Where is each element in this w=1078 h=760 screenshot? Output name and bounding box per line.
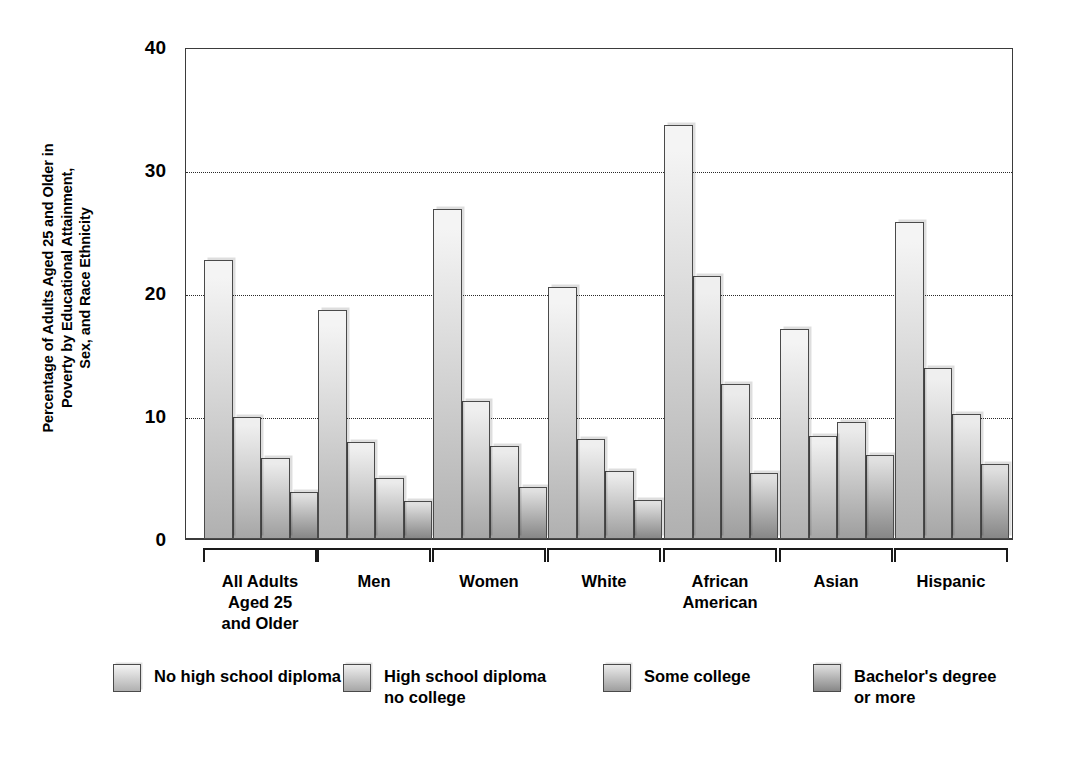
y-tick-label-40: 40	[112, 37, 166, 59]
legend-swatch	[603, 664, 631, 692]
bar[interactable]	[750, 473, 779, 539]
x-category: All Adults Aged 25 and Older	[203, 540, 317, 634]
chart-legend: No high school diplomaHigh school diplom…	[0, 662, 1078, 738]
category-bracket	[317, 548, 431, 562]
bar[interactable]	[577, 439, 606, 539]
y-tick-label-10: 10	[112, 406, 166, 428]
bar[interactable]	[261, 458, 290, 539]
bar[interactable]	[404, 501, 433, 539]
category-bracket	[663, 548, 777, 562]
bar[interactable]	[318, 310, 347, 539]
bar[interactable]	[837, 422, 866, 539]
category-bracket	[894, 548, 1008, 562]
bar[interactable]	[780, 329, 809, 539]
bar[interactable]	[233, 417, 262, 539]
x-category: Men	[317, 540, 431, 592]
bar-group	[664, 49, 778, 539]
bar[interactable]	[548, 287, 577, 539]
bar-group	[318, 49, 432, 539]
legend-label: High school diploma no college	[384, 662, 546, 709]
legend-item[interactable]: No high school diploma	[113, 662, 341, 692]
bar[interactable]	[664, 125, 693, 540]
bar[interactable]	[490, 446, 519, 539]
bar[interactable]	[809, 436, 838, 539]
legend-item[interactable]: Bachelor's degree or more	[813, 662, 996, 709]
category-label: All Adults Aged 25 and Older	[203, 571, 317, 634]
category-label: Asian	[779, 571, 893, 592]
bar[interactable]	[981, 464, 1010, 539]
bar-group	[780, 49, 894, 539]
poverty-education-bar-chart: Percentage of Adults Aged 25 and Older i…	[0, 0, 1078, 760]
bar[interactable]	[204, 260, 233, 539]
category-bracket	[203, 548, 317, 562]
bar-groups	[186, 49, 1012, 539]
bar[interactable]	[375, 478, 404, 540]
bar[interactable]	[290, 492, 319, 539]
category-label: Men	[317, 571, 431, 592]
bar[interactable]	[634, 500, 663, 539]
x-category: African American	[663, 540, 777, 613]
x-axis-categories: All Adults Aged 25 and OlderMenWomenWhit…	[185, 540, 1013, 660]
category-label: White	[547, 571, 661, 592]
category-bracket	[432, 548, 546, 562]
y-tick-label-30: 30	[112, 160, 166, 182]
bar[interactable]	[924, 368, 953, 539]
bar[interactable]	[605, 471, 634, 539]
x-category: Asian	[779, 540, 893, 592]
legend-item[interactable]: High school diploma no college	[343, 662, 546, 709]
bar[interactable]	[519, 487, 548, 539]
category-label: Hispanic	[894, 571, 1008, 592]
bar[interactable]	[866, 455, 895, 539]
x-category: Hispanic	[894, 540, 1008, 592]
y-axis-title-line-3: Sex, and Race Ethnicity	[76, 207, 95, 368]
legend-label: Bachelor's degree or more	[854, 662, 996, 709]
y-axis-title: Percentage of Adults Aged 25 and Older i…	[37, 58, 97, 518]
bar[interactable]	[952, 414, 981, 539]
bar-group	[433, 49, 547, 539]
legend-swatch	[343, 664, 371, 692]
bar[interactable]	[721, 384, 750, 539]
y-axis-title-line-2: Poverty by Educational Attainment,	[58, 168, 77, 408]
legend-label: No high school diploma	[154, 662, 341, 687]
plot-area	[185, 48, 1013, 540]
category-label: Women	[432, 571, 546, 592]
bar-group	[204, 49, 318, 539]
x-category: White	[547, 540, 661, 592]
y-tick-label-20: 20	[112, 283, 166, 305]
y-tick-label-0: 0	[112, 529, 166, 551]
y-axis-title-line-1: Percentage of Adults Aged 25 and Older i…	[39, 144, 58, 433]
bar-group	[895, 49, 1009, 539]
bar[interactable]	[462, 401, 491, 539]
category-bracket	[779, 548, 893, 562]
legend-label: Some college	[644, 662, 750, 687]
bar[interactable]	[895, 222, 924, 539]
legend-item[interactable]: Some college	[603, 662, 750, 692]
category-label: African American	[663, 571, 777, 613]
y-axis-tick-labels: 010203040	[104, 0, 166, 760]
legend-swatch	[113, 664, 141, 692]
bar[interactable]	[433, 209, 462, 539]
category-bracket	[547, 548, 661, 562]
bar-group	[548, 49, 662, 539]
bar[interactable]	[347, 442, 376, 539]
legend-swatch	[813, 664, 841, 692]
x-category: Women	[432, 540, 546, 592]
bar[interactable]	[693, 276, 722, 539]
